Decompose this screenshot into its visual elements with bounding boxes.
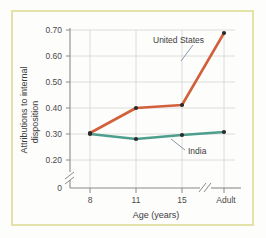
chart-frame: 0.70 0.60 0.50 0.40 0.30 0.20 0 8 11 15 … [11,10,254,226]
line-chart: 0.70 0.60 0.50 0.40 0.30 0.20 0 8 11 15 … [13,12,252,224]
y-tick-label-0: 0 [57,183,62,193]
y-tick-label-050: 0.50 [45,77,62,87]
x-tick-label-8: 8 [88,195,93,205]
y-tick-label-060: 0.60 [45,51,62,61]
series-line-united-states [90,33,224,133]
gridlines-vertical [90,30,224,188]
y-tick-label-070: 0.70 [45,25,62,35]
data-point [134,137,138,141]
data-point [88,132,92,136]
series-markers-united-states [88,31,226,135]
data-point [222,31,226,35]
y-axis-ticks [66,30,70,160]
series-label-india: India [188,146,207,156]
x-axis-ticks [90,188,224,193]
x-tick-label-15: 15 [177,195,187,205]
y-axis-title-line2: disposition [30,101,40,144]
x-axis-title: Age (years) [133,210,180,220]
annotation-leader-united-states [181,45,193,61]
y-tick-label-040: 0.40 [45,103,62,113]
figure-container: 0.70 0.60 0.50 0.40 0.30 0.20 0 8 11 15 … [0,0,266,238]
data-point [180,133,184,137]
y-axis-title-line1: Attributions to internal [19,66,29,153]
y-tick-label-020: 0.20 [45,155,62,165]
series-label-united-states: United States [153,35,204,45]
data-point [134,106,138,110]
series-line-india [90,132,224,139]
x-tick-label-adult: Adult [216,195,236,205]
y-tick-label-030: 0.30 [45,129,62,139]
gridlines-horizontal [70,30,235,160]
data-point [180,103,184,107]
annotation-leader-india [171,139,185,150]
x-axis-break-icon [199,183,211,192]
data-point [222,130,226,134]
x-tick-label-11: 11 [132,195,141,205]
